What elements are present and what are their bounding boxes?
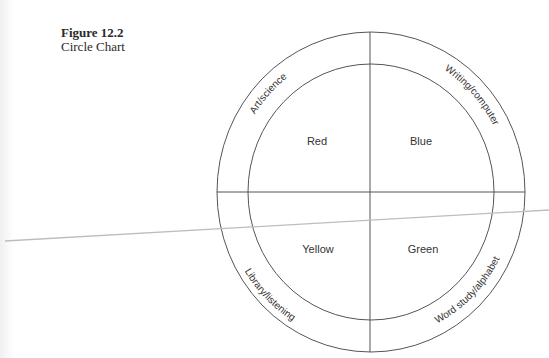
circle-chart: Red Blue Yellow Green Art/science Writin…: [0, 0, 549, 358]
ring-label-art-science-text: Art/science: [247, 70, 289, 115]
ring-label-art-science: Art/science: [247, 70, 289, 115]
ring-label-library-listening: Library/listening: [243, 266, 298, 322]
ring-label-word-study-alphabet-text: Word study/alphabet: [433, 254, 502, 325]
quadrant-label-red: Red: [307, 135, 327, 147]
quadrant-label-yellow: Yellow: [302, 243, 333, 255]
quadrant-label-blue: Blue: [410, 135, 432, 147]
ring-label-word-study-alphabet: Word study/alphabet: [433, 254, 502, 325]
quadrant-label-green: Green: [408, 243, 439, 255]
ring-label-library-listening-text: Library/listening: [243, 266, 298, 322]
scan-artifact-line: [5, 210, 549, 241]
